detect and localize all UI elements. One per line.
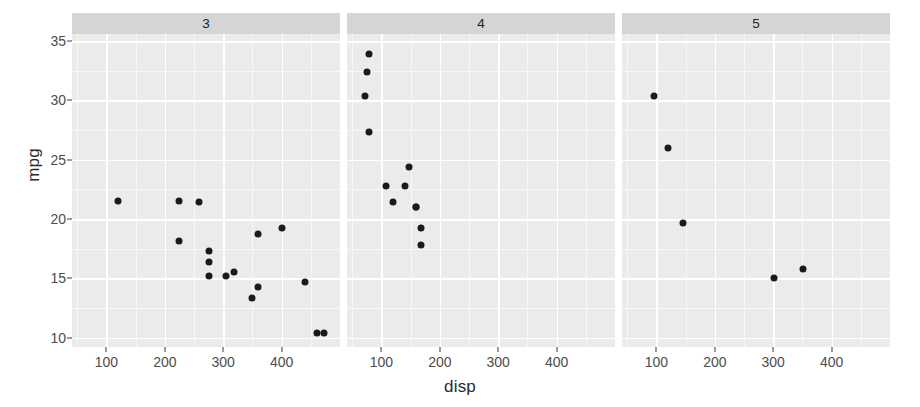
y-tick-label: 30: [50, 92, 66, 108]
gridline-minor-horizontal: [347, 71, 615, 72]
y-tick-label: 25: [50, 152, 66, 168]
gridline-minor-horizontal: [72, 71, 340, 72]
plot-panel: [347, 34, 615, 347]
data-point: [650, 92, 657, 99]
gridline-major-horizontal: [72, 41, 340, 43]
data-point: [679, 219, 686, 226]
gridline-major-vertical: [832, 34, 834, 347]
data-point: [364, 68, 371, 75]
x-tick-label: 300: [762, 354, 785, 370]
x-tick-mark: [831, 347, 832, 352]
x-tick-mark: [556, 347, 557, 352]
gridline-minor-horizontal: [347, 308, 615, 309]
data-point: [383, 182, 390, 189]
x-axis-4: 100200300400: [347, 347, 615, 377]
gridline-major-horizontal: [347, 219, 615, 221]
gridline-major-horizontal: [347, 100, 615, 102]
scatter-plot-figure: mpg 353025201510 345 1002003004001002003…: [0, 0, 920, 407]
gridline-minor-vertical: [469, 34, 470, 347]
gridline-minor-vertical: [136, 34, 137, 347]
gridline-major-horizontal: [622, 41, 890, 43]
x-tick-mark: [439, 347, 440, 352]
x-axis-5: 100200300400: [622, 347, 890, 377]
gridline-major-horizontal: [72, 100, 340, 102]
facet-strip-label: 3: [202, 16, 210, 31]
facet-strip-label: 5: [752, 16, 760, 31]
gridline-major-horizontal: [72, 160, 340, 162]
gridline-major-vertical: [165, 34, 167, 347]
gridline-major-vertical: [773, 34, 775, 347]
x-tick-label: 300: [487, 354, 510, 370]
gridline-minor-vertical: [586, 34, 587, 347]
data-point: [206, 272, 213, 279]
x-tick-label: 400: [820, 354, 843, 370]
data-point: [405, 163, 412, 170]
gridline-major-vertical: [282, 34, 284, 347]
gridline-major-horizontal: [347, 41, 615, 43]
data-point: [230, 269, 237, 276]
x-tick-mark: [656, 347, 657, 352]
gridline-minor-horizontal: [622, 308, 890, 309]
data-point: [361, 92, 368, 99]
x-tick-label: 400: [545, 354, 568, 370]
gridline-minor-vertical: [352, 34, 353, 347]
facet-5: 5: [622, 13, 890, 347]
gridline-major-horizontal: [622, 100, 890, 102]
facet-3: 3: [72, 13, 340, 347]
gridline-minor-vertical: [802, 34, 803, 347]
x-tick-mark: [223, 347, 224, 352]
gridline-minor-horizontal: [72, 189, 340, 190]
x-axis-3: 100200300400: [72, 347, 340, 377]
x-tick-label: 200: [428, 354, 451, 370]
plot-panel: [622, 34, 890, 347]
facet-strip-label: 4: [477, 16, 485, 31]
gridline-major-vertical: [656, 34, 658, 347]
gridline-major-horizontal: [622, 338, 890, 340]
gridline-minor-vertical: [686, 34, 687, 347]
x-tick-mark: [281, 347, 282, 352]
data-point: [320, 329, 327, 336]
gridline-major-horizontal: [622, 160, 890, 162]
gridline-major-horizontal: [347, 278, 615, 280]
data-point: [176, 238, 183, 245]
gridline-major-vertical: [498, 34, 500, 347]
gridline-minor-horizontal: [72, 308, 340, 309]
gridline-minor-vertical: [411, 34, 412, 347]
gridline-minor-vertical: [527, 34, 528, 347]
x-axis-row: 100200300400100200300400100200300400: [72, 347, 890, 377]
gridline-major-horizontal: [347, 338, 615, 340]
data-point: [402, 182, 409, 189]
data-point: [115, 198, 122, 205]
gridline-minor-vertical: [311, 34, 312, 347]
data-point: [366, 51, 373, 58]
gridline-minor-vertical: [627, 34, 628, 347]
facet-panel-row: 345: [72, 13, 890, 347]
y-tick-label: 20: [50, 211, 66, 227]
data-point: [313, 329, 320, 336]
y-tick-label: 15: [50, 270, 66, 286]
data-point: [770, 275, 777, 282]
x-tick-mark: [714, 347, 715, 352]
data-point: [417, 225, 424, 232]
x-tick-label: 300: [212, 354, 235, 370]
data-point: [278, 225, 285, 232]
gridline-minor-horizontal: [622, 71, 890, 72]
data-point: [255, 283, 262, 290]
gridline-major-horizontal: [622, 219, 890, 221]
gridline-minor-horizontal: [622, 189, 890, 190]
facet-strip: 3: [72, 13, 340, 34]
gridline-major-horizontal: [622, 278, 890, 280]
x-tick-label: 200: [153, 354, 176, 370]
data-point: [417, 242, 424, 249]
data-point: [206, 258, 213, 265]
data-point: [413, 204, 420, 211]
x-tick-label: 100: [370, 354, 393, 370]
gridline-minor-horizontal: [72, 130, 340, 131]
x-tick-mark: [773, 347, 774, 352]
x-tick-label: 100: [95, 354, 118, 370]
y-tick-label: 10: [50, 330, 66, 346]
y-axis: 353025201510: [0, 0, 72, 407]
data-point: [255, 231, 262, 238]
gridline-minor-horizontal: [347, 189, 615, 190]
data-point: [249, 295, 256, 302]
